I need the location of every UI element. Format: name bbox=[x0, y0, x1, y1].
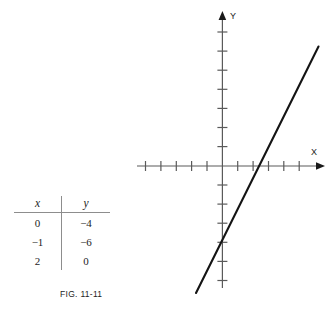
table-row: −1 −6 bbox=[14, 232, 110, 251]
plotted-line bbox=[196, 47, 319, 294]
table-row: 2 0 bbox=[14, 251, 110, 270]
cell-x: 0 bbox=[14, 213, 62, 233]
table-header-x: x bbox=[14, 196, 62, 213]
table-header-y: y bbox=[62, 196, 111, 213]
value-table: x y 0 −4 −1 −6 2 0 bbox=[14, 196, 110, 270]
cell-y: −4 bbox=[62, 213, 111, 233]
cell-x: −1 bbox=[14, 232, 62, 251]
figure-caption: FIG. 11-11 bbox=[60, 289, 102, 299]
cell-y: −6 bbox=[62, 232, 111, 251]
x-axis-arrow-icon bbox=[316, 162, 325, 170]
figure-container: Y X x y 0 −4 −1 −6 2 bbox=[0, 0, 329, 317]
cell-y: 0 bbox=[62, 251, 111, 270]
y-axis-label: Y bbox=[230, 11, 236, 21]
cell-x: 2 bbox=[14, 251, 62, 270]
x-axis bbox=[137, 161, 325, 171]
x-axis-label: X bbox=[311, 147, 317, 157]
y-axis-arrow-icon bbox=[219, 11, 227, 20]
table-row: 0 −4 bbox=[14, 213, 110, 233]
table-header-row: x y bbox=[14, 196, 110, 213]
